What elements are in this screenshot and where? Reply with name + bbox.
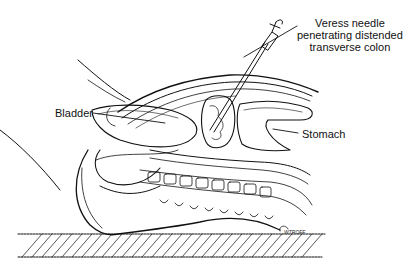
- back-contour: [76, 150, 280, 235]
- vertebrae: [140, 170, 312, 219]
- veress-label-line1: Veress needle: [297, 17, 403, 29]
- bladder-label: Bladder: [55, 107, 93, 119]
- veress-label-line2: penetrating distended: [297, 29, 403, 41]
- stomach: [237, 101, 312, 150]
- veress-leader: [244, 26, 297, 57]
- stomach-leader: [273, 129, 298, 133]
- veress-needle-label: Veress needle penetrating distended tran…: [297, 17, 403, 53]
- operating-table: [18, 234, 325, 257]
- veress-label-line3: transverse colon: [297, 41, 403, 53]
- thigh-outline: [78, 60, 130, 100]
- artist-signature: WTROFF: [284, 229, 305, 235]
- stomach-label: Stomach: [302, 128, 345, 140]
- transverse-colon: [202, 96, 235, 148]
